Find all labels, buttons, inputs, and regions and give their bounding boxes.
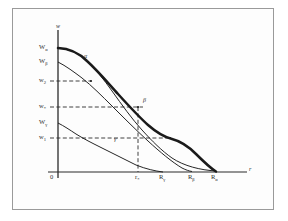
y-tick-w-gamma-sub: γ xyxy=(45,122,47,127)
x-tick-r-alpha-sub: α xyxy=(215,177,217,182)
y-tick-w-two: w2 xyxy=(39,77,46,86)
figure-canvas: w r 0 Wα Wβ w2 w* Wγ w1 r* Rγ Rβ Rα α β … xyxy=(0,0,288,221)
guide-lines-group xyxy=(50,81,170,172)
origin-label: 0 xyxy=(50,174,53,181)
y-tick-w-one: w1 xyxy=(39,134,46,143)
y-tick-w-gamma: Wγ xyxy=(39,119,47,128)
curve-label-beta: β xyxy=(143,97,146,103)
curve-beta xyxy=(58,62,192,172)
switch-points-group xyxy=(90,80,171,139)
y-tick-w-one-sub: 1 xyxy=(44,137,46,142)
y-tick-w-beta-sub: β xyxy=(45,61,47,66)
switch-point-upper xyxy=(90,80,92,82)
y-tick-w-two-sub: 2 xyxy=(44,80,46,85)
x-tick-r-star: r* xyxy=(135,174,139,183)
x-axis-label: r xyxy=(249,166,251,172)
x-tick-r-alpha: Rα xyxy=(211,174,218,183)
curve-envelope xyxy=(58,48,216,172)
curve-label-alpha: α xyxy=(84,53,87,59)
x-tick-r-beta: Rβ xyxy=(188,174,195,183)
x-tick-r-star-sub: * xyxy=(137,177,139,182)
x-tick-r-gamma: Rγ xyxy=(159,174,165,183)
y-axis-label: w xyxy=(56,23,60,29)
x-tick-r-beta-sub: β xyxy=(192,177,194,182)
curve-alpha xyxy=(58,48,216,171)
x-tick-r-gamma-sub: γ xyxy=(163,177,165,182)
curve-gamma xyxy=(58,123,163,172)
y-tick-w-star-sub: * xyxy=(44,106,46,111)
y-tick-w-star: w* xyxy=(39,103,46,112)
curve-label-gamma: γ xyxy=(114,136,116,142)
y-tick-w-beta: Wβ xyxy=(39,58,47,67)
curves-group xyxy=(58,48,216,172)
switch-point-lower xyxy=(169,137,171,139)
y-tick-w-alpha-sub: α xyxy=(45,47,47,52)
y-tick-w-alpha: Wα xyxy=(39,44,48,53)
point-beta-on-envelope xyxy=(137,106,139,108)
axes-group xyxy=(48,30,247,178)
